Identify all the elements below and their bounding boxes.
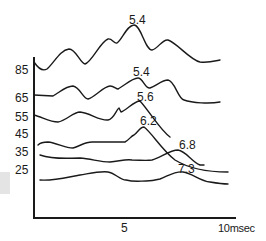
y-label-25: 25 — [15, 164, 35, 176]
y-label-85: 85 — [15, 64, 35, 76]
y-label-45: 45 — [15, 128, 35, 140]
y-label-65: 65 — [15, 92, 35, 104]
x-tick-5: 5 — [121, 222, 128, 234]
peak-label-25: 7.3 — [178, 163, 195, 175]
peak-label-55: 5.6 — [137, 91, 154, 103]
trace-65 — [34, 78, 220, 103]
y-label-55: 55 — [15, 111, 35, 123]
y-label-35: 35 — [15, 146, 35, 158]
peak-label-65: 5.4 — [133, 66, 150, 78]
x-tick-10msec: 10msec — [218, 222, 255, 234]
peak-label-45: 6.2 — [140, 115, 157, 127]
waveform-chart: 85 65 55 45 35 25 5.4 5.4 5.6 6.2 6.8 7.… — [0, 0, 266, 241]
trace-25 — [40, 172, 228, 184]
chart-plot-area — [0, 0, 266, 241]
peak-label-35: 6.8 — [179, 139, 196, 151]
peak-label-85: 5.4 — [129, 14, 146, 26]
trace-85 — [34, 25, 220, 70]
scan-smudge — [0, 172, 10, 194]
